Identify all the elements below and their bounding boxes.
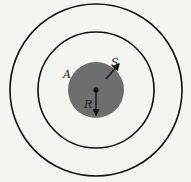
- label-R: R: [83, 98, 92, 111]
- label-A: A: [62, 68, 71, 81]
- label-S: S: [111, 56, 119, 69]
- concentric-circles-diagram: A S R: [0, 0, 191, 182]
